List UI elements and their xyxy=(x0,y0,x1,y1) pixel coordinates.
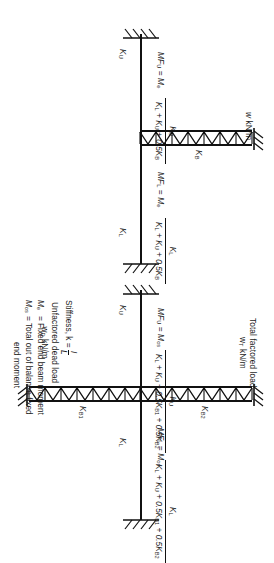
legend-symbol-mos: Mos xyxy=(22,300,34,316)
left-upper-moment-label: MFU = Me xyxy=(155,52,166,88)
left-upper-fixed-support-icon xyxy=(121,26,161,42)
right-upper-moment-label: MFU = Mos xyxy=(155,308,166,347)
legend-text-mos-line2: end moment xyxy=(11,316,23,415)
right-upper-fixed-support-icon xyxy=(121,282,161,298)
left-beam-load-label: w kN/m xyxy=(244,112,254,140)
left-lower-moment-label: MFL = Me xyxy=(155,172,166,207)
legend-stiffness: Stiffness, k = IL xyxy=(60,300,78,355)
right-column-lower-stiffness-label: KL xyxy=(117,438,128,447)
legend-symbol-spacer xyxy=(11,300,23,316)
left-lower-distribution-fraction: KL KL + KU + 0.5KB xyxy=(153,218,178,284)
left-column-lower-stiffness-label: KL xyxy=(117,228,128,237)
stiffness-definition-label: Stiffness, k = xyxy=(64,300,74,350)
legend-definition-row: Mos = Total out of balance fixed xyxy=(22,300,34,415)
right-beam-lower-stiffness-label: KB1 xyxy=(77,406,88,419)
right-beam-upper-stiffness-label: KB2 xyxy=(199,406,210,419)
legend-symbol-me: Me xyxy=(34,300,46,316)
right-upper-distribution-fraction: KU KL + KU + 0.5KB1 + 0.5KB2 xyxy=(153,350,178,453)
right-beam-upper-load-label: Total factored load wT kN/m xyxy=(236,318,258,388)
legend-text-mos: = Total out of balance fixed xyxy=(22,316,34,415)
stiffness-fraction-numerator: I xyxy=(69,350,78,355)
right-column-upper-stiffness-label: KU xyxy=(117,305,128,315)
right-lower-distribution-fraction: KL KL + KU + 0.5KB1 + 0.5KB2 xyxy=(153,460,178,563)
right-beam-lower-load-line1: Unfactored dead load xyxy=(50,302,60,383)
diagram-left-subframe: KU KL KB w kN/m MFU = Me MFL = Me KU KL … xyxy=(0,22,274,272)
legend-symbol-definitions: Me = Fixed end beam moment Mos = Total o… xyxy=(11,300,46,415)
left-beam-stiffness-label: KB xyxy=(193,150,204,160)
right-beam-upper-load-line1: Total factored load xyxy=(248,318,258,388)
left-column-upper-stiffness-label: KU xyxy=(117,49,128,59)
left-upper-distribution-fraction: KU KL + KU + 0.5KB xyxy=(153,98,178,164)
stiffness-definition: Stiffness, k = IL xyxy=(60,300,78,355)
stiffness-fraction: IL xyxy=(60,350,78,355)
legend-definition-row-continuation: end moment xyxy=(11,300,23,415)
left-column-member xyxy=(140,34,142,264)
right-column-member xyxy=(140,290,142,520)
stiffness-fraction-denominator: L xyxy=(60,350,70,355)
legend-text-me: = Fixed end beam moment xyxy=(34,316,46,415)
right-beam-upper-load-line2: wT kN/m xyxy=(238,337,248,369)
legend-definition-row: Me = Fixed end beam moment xyxy=(34,300,46,415)
